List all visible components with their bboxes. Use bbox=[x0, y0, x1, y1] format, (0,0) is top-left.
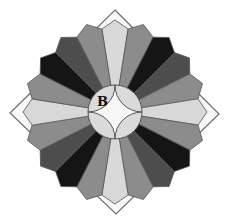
quilt-block-diagram: B bbox=[0, 0, 226, 224]
center-label: B bbox=[97, 94, 108, 109]
